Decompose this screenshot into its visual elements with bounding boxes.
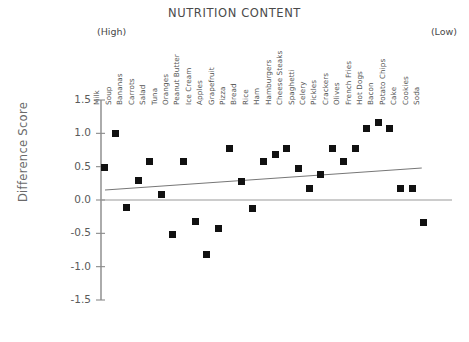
- x-axis-category-label: Grapefruit: [207, 67, 216, 105]
- x-axis-category-label: Carrots: [127, 78, 136, 105]
- data-point-marker: [169, 231, 176, 238]
- data-point-marker: [420, 219, 427, 226]
- data-point-marker: [203, 251, 210, 258]
- x-axis-category-label: Milk: [92, 90, 101, 105]
- x-axis-category-label: Ice Cream: [184, 68, 193, 105]
- y-axis-tick-label: -1.0: [57, 260, 91, 272]
- data-point-marker: [409, 185, 416, 192]
- x-axis-category-label: Potato Chips: [378, 59, 387, 105]
- data-point-marker: [272, 151, 279, 158]
- data-point-marker: [363, 125, 370, 132]
- x-axis-category-label: Olives: [332, 82, 341, 105]
- x-axis-category-label: Celery: [298, 81, 307, 105]
- x-axis-category-label: Pizza: [218, 86, 227, 105]
- x-axis-category-label: Peanut Butter: [172, 54, 181, 105]
- x-axis-category-label: Crackers: [321, 73, 330, 105]
- data-point-marker: [375, 119, 382, 126]
- x-axis-category-label: Cookies: [401, 76, 410, 105]
- data-point-marker: [386, 125, 393, 132]
- x-axis-category-label: Rice: [241, 89, 250, 105]
- x-axis-category-label: Soda: [412, 87, 421, 105]
- x-axis-category-label: Salad: [138, 85, 147, 105]
- y-axis-tick-label: 0.5: [57, 160, 91, 172]
- data-point-marker: [123, 204, 130, 211]
- x-axis-category-label: Bread: [229, 83, 238, 105]
- x-axis-category-label: French Fries: [344, 61, 353, 105]
- data-point-marker: [180, 158, 187, 165]
- x-axis-category-label: Apples: [195, 80, 204, 105]
- trend-line: [105, 168, 422, 190]
- x-axis-category-label: Hot Dogs: [355, 71, 364, 105]
- data-point-marker: [317, 171, 324, 178]
- x-axis-category-label: Hamburgers: [264, 60, 273, 105]
- data-point-marker: [249, 205, 256, 212]
- data-point-marker: [329, 145, 336, 152]
- data-point-marker: [260, 158, 267, 165]
- data-point-marker: [112, 130, 119, 137]
- data-point-marker: [215, 225, 222, 232]
- data-point-marker: [158, 191, 165, 198]
- chart-root: NUTRITION CONTENT (High) (Low) Differenc…: [0, 0, 469, 342]
- y-axis-tick-label: -1.5: [57, 293, 91, 305]
- data-point-marker: [295, 165, 302, 172]
- data-point-marker: [397, 185, 404, 192]
- y-axis-tick-label: 1.5: [57, 93, 91, 105]
- x-axis-category-label: Soup: [104, 87, 113, 105]
- data-point-marker: [146, 158, 153, 165]
- data-point-marker: [340, 158, 347, 165]
- x-axis-category-label: Oranges: [161, 74, 170, 105]
- x-axis-category-label: Spaghetti: [287, 69, 296, 105]
- x-axis-category-label: Pickles: [309, 80, 318, 105]
- x-axis-category-label: Cake: [389, 87, 398, 105]
- x-axis-category-label: Bacon: [366, 82, 375, 105]
- y-axis-tick-label: 1.0: [57, 126, 91, 138]
- x-axis-category-label: Ham: [252, 88, 261, 105]
- plot-area: 1.51.00.50.0-0.5-1.0-1.5MilkSoupBananasC…: [0, 0, 469, 342]
- data-point-marker: [135, 177, 142, 184]
- data-point-marker: [192, 218, 199, 225]
- data-point-marker: [101, 164, 108, 171]
- data-point-marker: [352, 145, 359, 152]
- data-point-marker: [226, 145, 233, 152]
- data-point-marker: [283, 145, 290, 152]
- x-axis-category-label: Tuna: [150, 88, 159, 105]
- y-axis-tick-label: 0.0: [57, 193, 91, 205]
- x-axis-category-label: Bananas: [115, 73, 124, 105]
- x-axis-category-label: Cheese Steaks: [275, 51, 284, 105]
- data-point-marker: [238, 178, 245, 185]
- y-axis-tick-label: -0.5: [57, 226, 91, 238]
- data-point-marker: [306, 185, 313, 192]
